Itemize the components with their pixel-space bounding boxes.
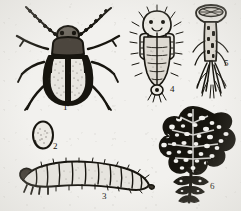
figure-label-6: 6 bbox=[210, 182, 215, 191]
figure-damaged-leaf: 6 bbox=[148, 103, 240, 209]
figure-larva: 3 bbox=[16, 158, 158, 206]
figure-egg: 2 bbox=[28, 120, 62, 152]
eye-right bbox=[72, 31, 76, 35]
figure-damaged-stem: 5 bbox=[190, 3, 236, 103]
figure-label-4: 4 bbox=[170, 85, 175, 94]
figure-pupa: 4 bbox=[126, 3, 188, 107]
pronotum bbox=[52, 37, 84, 56]
figure-label-1: 1 bbox=[63, 103, 68, 112]
illustration-plate: 1 2 bbox=[0, 0, 241, 211]
figure-label-3: 3 bbox=[102, 192, 107, 201]
figure-label-5: 5 bbox=[224, 59, 229, 68]
stem-shaft bbox=[204, 22, 217, 61]
figure-adult-beetle: 1 bbox=[8, 2, 128, 114]
figure-label-2: 2 bbox=[53, 142, 58, 151]
eye-left bbox=[60, 31, 64, 35]
